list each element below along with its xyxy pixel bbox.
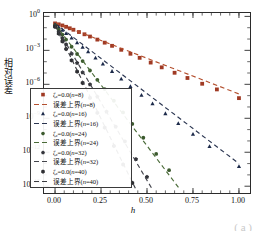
data-point: [138, 56, 142, 60]
legend-marker-swatch: [33, 167, 53, 176]
legend-line-swatch: [33, 100, 53, 109]
data-point: [41, 131, 45, 135]
legend-label: 误差上界(n=24): [53, 138, 98, 147]
data-point: [149, 61, 153, 65]
legend-marker-swatch: [33, 148, 53, 157]
data-point: [200, 82, 204, 86]
legend-label: 误差上界(n=32): [53, 157, 98, 166]
data-point: [81, 45, 85, 49]
data-point: [119, 77, 123, 81]
data-point: [139, 93, 143, 97]
data-point: [93, 56, 97, 60]
x-axis-title: h: [0, 205, 266, 215]
x-tick-label: 0.00: [39, 197, 69, 205]
data-point: [186, 76, 190, 80]
legend-item[interactable]: 误差上界(n=32): [33, 157, 129, 167]
legend-label: ζc=0.0(n=40): [53, 167, 87, 176]
legend-line-swatch: [33, 157, 53, 166]
x-tick-label: 0.50: [131, 197, 161, 205]
y-axis-title: 相对误差: [1, 58, 13, 94]
legend-marker-swatch: [33, 129, 53, 138]
legend-item[interactable]: ζc=0.0(n=16): [33, 109, 129, 119]
figure-container: 相对误差 10010−310−610−910−1210−15 0.000.250…: [0, 0, 266, 231]
data-point: [215, 88, 219, 92]
y-tick-label: 100: [0, 11, 40, 19]
legend-line-swatch: [33, 177, 53, 186]
legend-item[interactable]: ζc=0.0(n=8): [33, 90, 129, 100]
data-point: [41, 150, 45, 154]
legend-item[interactable]: ζc=0.0(n=24): [33, 128, 129, 138]
data-point: [41, 170, 45, 174]
legend-line-swatch: [33, 119, 53, 128]
x-tick-label: 0.25: [85, 197, 115, 205]
data-point: [69, 36, 73, 40]
legend-item[interactable]: 误差上界(n=40): [33, 176, 129, 186]
data-point: [207, 144, 211, 148]
legend-label: ζc=0.0(n=8): [53, 90, 83, 99]
data-point: [191, 132, 195, 136]
data-point: [237, 164, 241, 168]
data-point: [101, 62, 105, 66]
legend-item[interactable]: ζc=0.0(n=40): [33, 167, 129, 177]
legend-item[interactable]: 误差上界(n=16): [33, 119, 129, 129]
data-point: [160, 65, 164, 69]
data-point: [173, 71, 177, 75]
data-point: [75, 40, 79, 44]
legend-label: ζc=0.0(n=16): [53, 109, 87, 118]
legend-marker-swatch: [33, 109, 53, 118]
legend-item[interactable]: 误差上界(n=24): [33, 138, 129, 148]
legend-label: 误差上界(n=8): [53, 100, 95, 109]
legend-line-swatch: [33, 138, 53, 147]
data-point: [237, 96, 241, 100]
figure-caption: ( a ): [234, 221, 252, 231]
data-point: [110, 69, 114, 73]
data-point: [163, 111, 167, 115]
legend-item[interactable]: ζc=0.0(n=32): [33, 148, 129, 158]
legend-label: 误差上界(n=16): [53, 119, 98, 128]
data-point: [41, 93, 45, 97]
x-tick-label: 1.00: [223, 197, 253, 205]
data-point: [150, 101, 154, 105]
data-point: [41, 112, 45, 116]
y-tick-label: 10−3: [0, 45, 40, 53]
data-point: [86, 50, 90, 54]
data-point: [167, 168, 171, 172]
y-tick-label: 10−6: [0, 79, 40, 87]
legend-box[interactable]: ζc=0.0(n=8)误差上界(n=8)ζc=0.0(n=16)误差上界(n=1…: [30, 88, 132, 188]
legend-label: ζc=0.0(n=24): [53, 129, 87, 138]
legend-label: 误差上界(n=40): [53, 177, 98, 186]
x-tick-label: 0.75: [177, 197, 207, 205]
legend-label: ζc=0.0(n=32): [53, 148, 87, 157]
data-point: [176, 121, 180, 125]
legend-marker-swatch: [33, 90, 53, 99]
data-point: [141, 136, 145, 140]
legend-item[interactable]: 误差上界(n=8): [33, 100, 129, 110]
